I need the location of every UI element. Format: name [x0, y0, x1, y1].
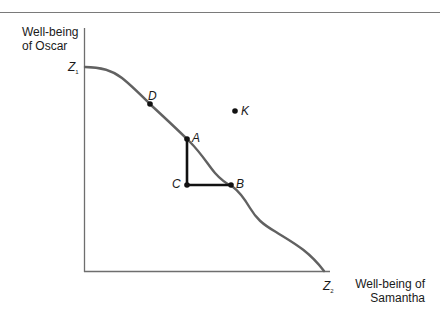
frontier-curve — [85, 67, 324, 271]
point-a-label: A — [192, 131, 200, 145]
point-d-label: D — [148, 89, 157, 103]
y-axis-label-line2: of Oscar — [22, 39, 78, 53]
y-axis-label: Well-being of Oscar — [22, 25, 78, 53]
z1-label: Z1 — [68, 60, 79, 76]
point-a — [184, 136, 190, 142]
x-axis-label: Well-being of Samantha — [351, 277, 425, 305]
x-axis-label-line2: Samantha — [351, 291, 425, 305]
z2-label: Z2 — [323, 279, 334, 295]
point-k-label: K — [241, 104, 249, 118]
y-axis-label-line1: Well-being — [22, 25, 78, 39]
point-b — [228, 182, 234, 188]
point-c-label: C — [172, 177, 181, 191]
x-axis-label-line1: Well-being of — [351, 277, 425, 291]
point-b-label: B — [236, 177, 244, 191]
point-k — [232, 108, 238, 114]
point-c — [184, 182, 190, 188]
